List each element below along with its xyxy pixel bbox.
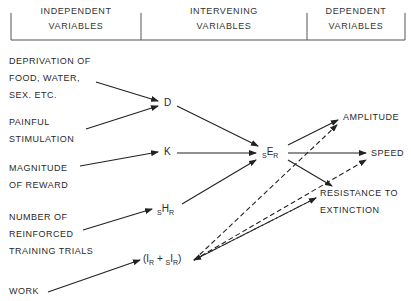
header-independent: INDEPENDENT VARIABLES <box>11 4 141 34</box>
header-dependent-line2: VARIABLES <box>307 19 405 34</box>
node-reaction-potential: SER <box>262 146 278 159</box>
dashed-arrow-return-to-inhib <box>194 198 316 260</box>
label-deprivation: DEPRIVATION OF FOOD, WATER, SEX. ETC. <box>9 53 91 104</box>
header-intervening: INTERVENING VARIABLES <box>141 4 307 34</box>
label-work: WORK <box>9 283 39 300</box>
plus: + <box>154 253 165 264</box>
node-incentive: K <box>164 146 171 157</box>
symbol: H <box>162 203 169 214</box>
label-line: FOOD, WATER, <box>9 70 91 87</box>
arrow-painful-to-D <box>86 106 158 129</box>
header-intervening-line1: INTERVENING <box>141 4 307 19</box>
node-drive: D <box>164 97 171 108</box>
label-training-trials: NUMBER OF REINFORCED TRAINING TRIALS <box>9 209 93 260</box>
label-line: RESISTANCE TO <box>320 185 398 202</box>
arrow-magnitude-to-K <box>80 152 158 166</box>
label-line: SPEED <box>371 145 404 162</box>
label-line: REINFORCED <box>9 226 93 243</box>
header-independent-line1: INDEPENDENT <box>11 4 141 19</box>
header-intervening-line2: VARIABLES <box>141 19 307 34</box>
subscript: R <box>169 209 174 216</box>
label-amplitude: AMPLITUDE <box>343 109 399 126</box>
header-dependent-line1: DEPENDENT <box>307 4 405 19</box>
label-line: NUMBER OF <box>9 209 93 226</box>
arrow-sER-to-resistance <box>288 160 332 186</box>
label-magnitude-of-reward: MAGNITUDE OF REWARD <box>9 160 68 194</box>
arrow-work-to-inhib <box>48 260 140 292</box>
label-line: SEX. ETC. <box>9 87 91 104</box>
arrow-D-to-sER <box>177 106 258 146</box>
node-inhibition: (IR + SIR) <box>143 253 181 266</box>
header-independent-line2: VARIABLES <box>11 19 141 34</box>
label-line: WORK <box>9 283 39 300</box>
label-painful-stimulation: PAINFUL STIMULATION <box>9 114 74 148</box>
label-line: DEPRIVATION OF <box>9 53 91 70</box>
header-dependent: DEPENDENT VARIABLES <box>307 4 405 34</box>
node-habit-strength: SHR <box>157 203 174 216</box>
label-line: PAINFUL <box>9 114 74 131</box>
subscript: R <box>273 152 278 159</box>
label-line: TRAINING TRIALS <box>9 243 93 260</box>
label-resistance-to-extinction: RESISTANCE TO EXTINCTION <box>320 185 398 219</box>
arrow-sER-to-amplitude <box>288 120 338 145</box>
arrow-deprivation-to-D <box>96 82 158 101</box>
label-speed: SPEED <box>371 145 404 162</box>
arrow-sHR-to-sER <box>182 160 256 204</box>
label-line: OF REWARD <box>9 177 68 194</box>
label-line: AMPLITUDE <box>343 109 399 126</box>
label-line: STIMULATION <box>9 131 74 148</box>
label-line: MAGNITUDE <box>9 160 68 177</box>
label-line: EXTINCTION <box>320 202 398 219</box>
symbol: ) <box>178 253 181 264</box>
